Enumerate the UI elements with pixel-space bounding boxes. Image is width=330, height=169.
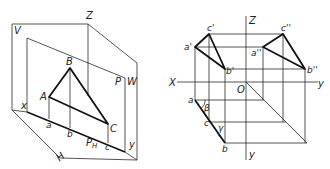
miter-line (246, 82, 307, 143)
projection-diagram: Z V P W x y H B A C a b c PH (0, 0, 330, 169)
label-gamma: γ (218, 123, 224, 133)
label-y-bottom: y (248, 149, 256, 160)
label-b: b (222, 144, 228, 154)
side-view-triangle (263, 34, 305, 69)
label-beta: β (203, 103, 210, 113)
label-y-right: y (317, 78, 325, 89)
label-C: C (110, 123, 117, 134)
front-view-triangle (195, 34, 225, 69)
label-a-prime: a' (184, 42, 192, 52)
label-p: P (115, 76, 122, 87)
label-c-double-prime: c'' (281, 23, 291, 33)
y-axis-segment (125, 152, 137, 160)
top-view-line (195, 100, 225, 143)
label-x: X (168, 77, 177, 88)
triangle-abc (49, 68, 108, 124)
label-z: Z (85, 10, 94, 21)
label-c: c (105, 142, 110, 152)
label-a: a (188, 95, 194, 105)
label-v: V (14, 25, 22, 36)
h-plane-outline (12, 110, 137, 160)
label-a: a (46, 120, 52, 130)
label-b-prime: b' (226, 66, 234, 76)
label-a-double-prime: a'' (251, 48, 261, 58)
label-ph: PH (86, 137, 98, 150)
label-h: H (54, 150, 67, 164)
label-y: y (128, 139, 136, 150)
left-spatial-figure: Z V P W x y H B A C a b c PH (12, 10, 138, 163)
label-b-double-prime: b'' (307, 65, 318, 75)
label-o: O (237, 84, 245, 95)
label-c-prime: c' (207, 23, 214, 33)
right-projection-figure: Z X O y y c' a' b' c'' a'' b'' a c b β γ (168, 15, 325, 160)
label-z: Z (248, 15, 257, 26)
label-w: W (127, 76, 138, 87)
label-c: c (204, 118, 209, 128)
label-x: x (20, 100, 27, 111)
label-A: A (39, 91, 47, 102)
label-b: b (67, 129, 73, 139)
label-B: B (66, 56, 73, 67)
